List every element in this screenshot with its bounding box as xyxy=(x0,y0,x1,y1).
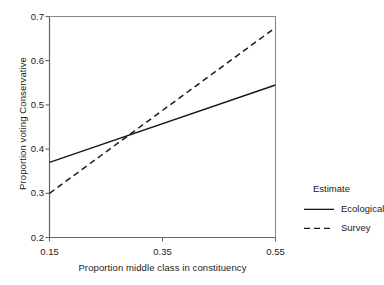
y-tick-label: 0.3 xyxy=(31,187,44,198)
series-line-survey xyxy=(50,28,276,194)
data-series-lines xyxy=(50,28,276,194)
legend-label-ecological: Ecological xyxy=(341,203,384,214)
x-tick-label-wrap: 0.35 xyxy=(138,241,188,259)
legend-title: Estimate xyxy=(313,183,350,194)
legend-label-survey: Survey xyxy=(341,222,371,233)
y-tick-label: 0.7 xyxy=(31,11,44,22)
y-tick-label: 0.5 xyxy=(31,99,44,110)
x-tick-label: 0.35 xyxy=(153,246,172,257)
series-line-ecological xyxy=(50,85,276,162)
y-tick-label: 0.6 xyxy=(31,55,44,66)
legend-swatch-solid-icon xyxy=(303,208,335,210)
y-tick-label-wrap: 0.7 xyxy=(14,11,44,23)
x-axis-label: Proportion middle class in constituency xyxy=(49,262,276,273)
x-tick-label: 0.15 xyxy=(40,246,59,257)
y-tick-label: 0.4 xyxy=(31,143,44,154)
legend-swatch-dashed-icon xyxy=(303,227,335,229)
y-axis-label: Proportion voting Conservative xyxy=(17,24,28,224)
x-tick-label: 0.55 xyxy=(266,246,285,257)
x-tick-label-wrap: 0.15 xyxy=(25,241,75,259)
x-tick-label-wrap: 0.55 xyxy=(251,241,301,259)
